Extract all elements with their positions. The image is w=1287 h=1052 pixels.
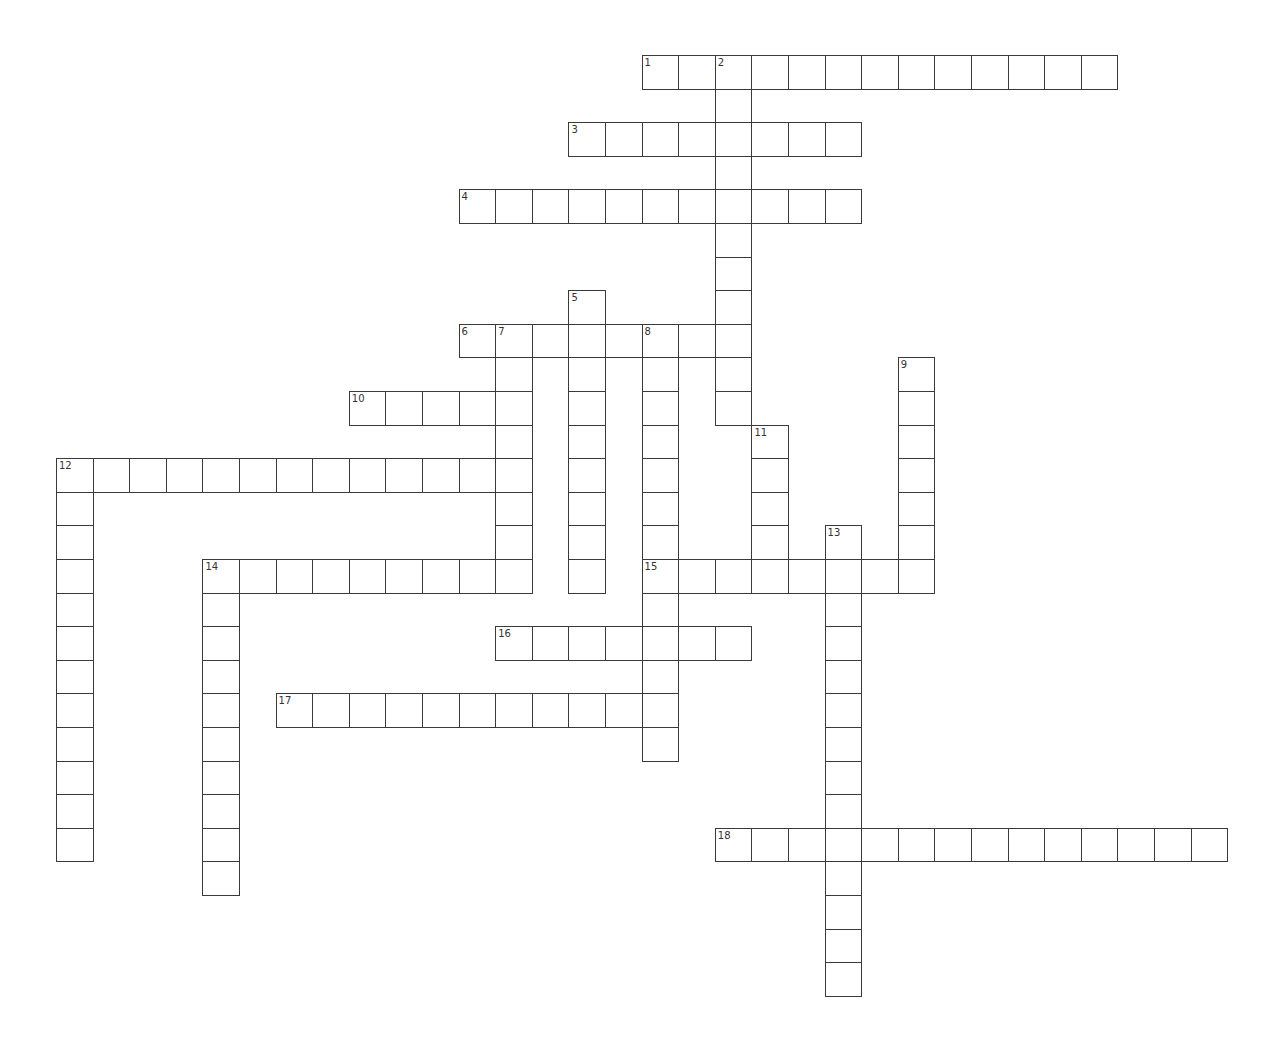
letter-input[interactable] <box>57 560 93 593</box>
crossword-cell[interactable] <box>825 593 863 628</box>
letter-input[interactable] <box>716 56 752 89</box>
letter-input[interactable] <box>460 560 496 593</box>
letter-input[interactable] <box>1045 56 1081 89</box>
letter-input[interactable] <box>716 190 752 223</box>
crossword-cell[interactable] <box>642 458 680 493</box>
crossword-cell[interactable] <box>385 458 423 493</box>
letter-input[interactable] <box>496 526 532 559</box>
crossword-cell[interactable] <box>861 828 899 863</box>
letter-input[interactable] <box>716 90 752 123</box>
crossword-cell[interactable] <box>312 693 350 728</box>
letter-input[interactable] <box>94 459 130 492</box>
crossword-cell[interactable] <box>202 593 240 628</box>
letter-input[interactable] <box>313 459 349 492</box>
letter-input[interactable] <box>533 694 569 727</box>
letter-input[interactable] <box>386 694 422 727</box>
crossword-cell[interactable] <box>861 55 899 90</box>
letter-input[interactable] <box>643 426 679 459</box>
crossword-cell[interactable] <box>56 593 94 628</box>
crossword-cell[interactable] <box>825 189 863 224</box>
letter-input[interactable] <box>899 56 935 89</box>
crossword-cell[interactable] <box>202 693 240 728</box>
letter-input[interactable] <box>643 123 679 156</box>
letter-input[interactable] <box>313 560 349 593</box>
letter-input[interactable] <box>716 224 752 257</box>
crossword-cell[interactable] <box>568 391 606 426</box>
crossword-cell[interactable]: 1 <box>642 55 680 90</box>
letter-input[interactable] <box>423 459 459 492</box>
letter-input[interactable] <box>57 526 93 559</box>
crossword-cell[interactable] <box>788 189 826 224</box>
crossword-cell[interactable] <box>568 458 606 493</box>
letter-input[interactable] <box>716 829 752 862</box>
crossword-cell[interactable] <box>678 324 716 359</box>
crossword-cell[interactable] <box>202 727 240 762</box>
letter-input[interactable] <box>569 291 605 324</box>
crossword-cell[interactable] <box>239 559 277 594</box>
crossword-cell[interactable] <box>788 55 826 90</box>
letter-input[interactable] <box>496 493 532 526</box>
letter-input[interactable] <box>203 762 239 795</box>
letter-input[interactable] <box>423 694 459 727</box>
letter-input[interactable] <box>826 963 862 996</box>
crossword-cell[interactable] <box>605 189 643 224</box>
crossword-cell[interactable] <box>642 693 680 728</box>
letter-input[interactable] <box>899 526 935 559</box>
crossword-cell[interactable] <box>642 425 680 460</box>
crossword-cell[interactable] <box>495 525 533 560</box>
crossword-cell[interactable] <box>56 559 94 594</box>
letter-input[interactable] <box>826 526 862 559</box>
crossword-cell[interactable] <box>56 660 94 695</box>
letter-input[interactable] <box>899 560 935 593</box>
crossword-cell[interactable] <box>825 895 863 930</box>
crossword-cell[interactable] <box>56 693 94 728</box>
letter-input[interactable] <box>643 358 679 391</box>
crossword-cell[interactable] <box>642 357 680 392</box>
crossword-cell[interactable] <box>898 391 936 426</box>
crossword-cell[interactable]: 15 <box>642 559 680 594</box>
letter-input[interactable] <box>643 560 679 593</box>
crossword-cell[interactable] <box>276 559 314 594</box>
letter-input[interactable] <box>716 325 752 358</box>
crossword-cell[interactable] <box>568 693 606 728</box>
crossword-cell[interactable] <box>678 122 716 157</box>
crossword-cell[interactable] <box>1191 828 1229 863</box>
crossword-cell[interactable] <box>825 660 863 695</box>
crossword-cell[interactable] <box>93 458 131 493</box>
crossword-cell[interactable] <box>166 458 204 493</box>
letter-input[interactable] <box>203 829 239 862</box>
letter-input[interactable] <box>826 762 862 795</box>
letter-input[interactable] <box>899 358 935 391</box>
crossword-cell[interactable] <box>751 189 789 224</box>
letter-input[interactable] <box>679 56 715 89</box>
crossword-cell[interactable]: 7 <box>495 324 533 359</box>
letter-input[interactable] <box>57 493 93 526</box>
crossword-cell[interactable]: 4 <box>459 189 497 224</box>
letter-input[interactable] <box>826 594 862 627</box>
letter-input[interactable] <box>569 526 605 559</box>
letter-input[interactable] <box>716 291 752 324</box>
crossword-cell[interactable]: 8 <box>642 324 680 359</box>
crossword-cell[interactable] <box>642 492 680 527</box>
letter-input[interactable] <box>679 325 715 358</box>
letter-input[interactable] <box>57 594 93 627</box>
crossword-cell[interactable] <box>532 693 570 728</box>
letter-input[interactable] <box>1009 56 1045 89</box>
crossword-cell[interactable]: 5 <box>568 290 606 325</box>
letter-input[interactable] <box>350 560 386 593</box>
crossword-cell[interactable] <box>312 458 350 493</box>
crossword-cell[interactable] <box>495 492 533 527</box>
letter-input[interactable] <box>350 392 386 425</box>
letter-input[interactable] <box>57 694 93 727</box>
letter-input[interactable] <box>752 426 788 459</box>
crossword-cell[interactable] <box>129 458 167 493</box>
letter-input[interactable] <box>57 795 93 828</box>
letter-input[interactable] <box>496 392 532 425</box>
crossword-cell[interactable] <box>898 458 936 493</box>
crossword-cell[interactable] <box>898 55 936 90</box>
letter-input[interactable] <box>643 594 679 627</box>
letter-input[interactable] <box>643 694 679 727</box>
letter-input[interactable] <box>533 627 569 660</box>
letter-input[interactable] <box>496 190 532 223</box>
letter-input[interactable] <box>57 627 93 660</box>
